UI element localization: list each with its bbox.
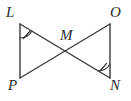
vertex-label-O: O [110, 5, 121, 20]
angle-mark-N [98, 64, 110, 72]
vertex-label-N: N [110, 78, 120, 93]
geometry-figure: L O M P N [0, 0, 131, 101]
vertex-label-P: P [8, 78, 17, 93]
vertex-label-M: M [60, 28, 73, 43]
vertex-label-L: L [6, 5, 14, 20]
angle-mark-L [20, 31, 32, 39]
